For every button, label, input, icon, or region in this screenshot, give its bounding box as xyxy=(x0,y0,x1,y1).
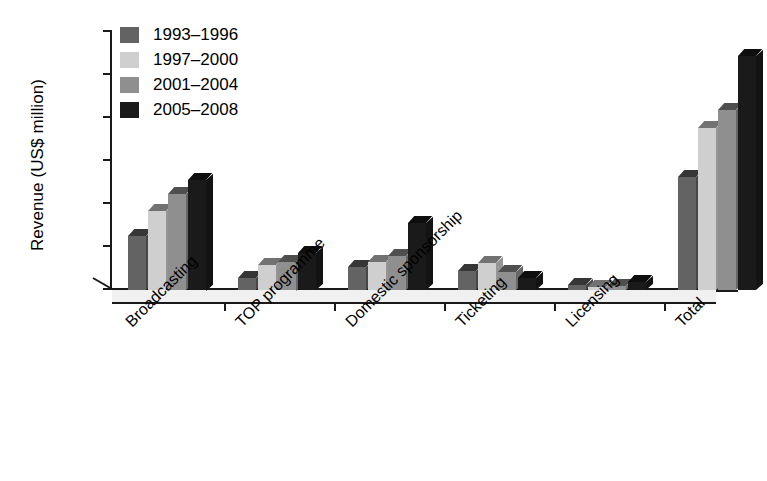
y-axis-tick xyxy=(103,202,112,204)
x-axis-tick xyxy=(444,302,446,311)
bar-front-face xyxy=(458,271,476,290)
bar-front-face xyxy=(738,56,756,290)
bar xyxy=(718,110,736,290)
bar xyxy=(738,56,756,290)
bar-side-face xyxy=(756,49,763,290)
floor-left-edge xyxy=(92,277,114,303)
bar-side-face xyxy=(206,173,213,290)
bar xyxy=(678,177,696,290)
x-axis-tick xyxy=(554,302,556,311)
y-axis-title: Revenue (US$ million) xyxy=(28,35,48,295)
bar xyxy=(128,236,146,290)
bar-front-face xyxy=(718,110,736,290)
bar xyxy=(568,285,586,290)
bar xyxy=(628,282,646,290)
baseline-floor-face xyxy=(112,290,716,302)
x-axis-tick xyxy=(664,302,666,311)
bar xyxy=(238,278,256,290)
bar-front-face xyxy=(628,282,646,290)
y-axis-tick xyxy=(103,245,112,247)
bar-front-face xyxy=(128,236,146,290)
baseline-floor-bottom xyxy=(112,302,716,304)
y-axis-tick xyxy=(103,73,112,75)
bar xyxy=(698,128,716,290)
bar-front-face xyxy=(678,177,696,290)
bar xyxy=(348,267,366,290)
x-axis-tick xyxy=(224,302,226,311)
y-axis-tick xyxy=(103,159,112,161)
bar-front-face xyxy=(238,278,256,290)
bar xyxy=(458,271,476,290)
y-axis-tick xyxy=(103,116,112,118)
bar-front-face xyxy=(518,278,536,290)
bar xyxy=(518,278,536,290)
bar-front-face xyxy=(348,267,366,290)
y-axis-tick xyxy=(103,30,112,32)
x-axis-tick xyxy=(334,302,336,311)
bar-front-face xyxy=(568,285,586,290)
bar-front-face xyxy=(698,128,716,290)
chart-figure: Revenue (US$ million) 1993–1996 1997–200… xyxy=(0,0,767,481)
